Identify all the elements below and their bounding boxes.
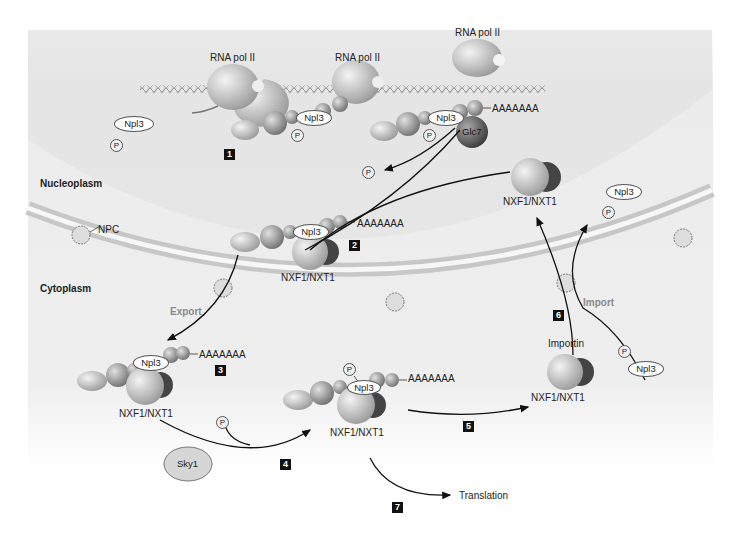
phosphate-imported: P [602,206,615,219]
sky1-label: Sky1 [177,458,198,469]
polya-tail-1: AAAAAAA [492,103,539,114]
npl3-imported: Npl3 [606,184,642,200]
export-label: Export [170,306,202,317]
importin-label: Importin [548,338,584,349]
step-7-badge: 7 [392,502,403,513]
npc-label: NPC [98,224,119,235]
step-4-badge: 4 [280,459,291,470]
translation-label: Translation [459,490,508,501]
rna-pol-label-2: RNA pol II [335,52,380,63]
phosphate-step4: P [343,363,356,376]
nxf1-nxt1-label-step3: NXF1/NXT1 [119,408,173,419]
step-5-badge: 5 [463,421,474,432]
phosphate-sky1: P [216,416,229,429]
nxf1-nxt1-label-step2: NXF1/NXT1 [281,272,335,283]
diagram-graphics [0,0,741,534]
step-3-badge: 3 [215,365,226,376]
diagram-canvas: RNA pol II RNA pol II RNA pol II Nucleop… [0,0,741,534]
npl3-step2: Npl3 [293,224,329,240]
nucleoplasm-label: Nucleoplasm [40,178,102,189]
polya-tail-4: AAAAAAA [408,373,455,384]
npl3-free-nucleus: Npl3 [114,116,154,132]
import-label: Import [583,297,614,308]
npl3-cytoplasm: Npl3 [628,361,664,377]
nxf1-nxt1-label-step5: NXF1/NXT1 [531,392,585,403]
polya-tail-2: AAAAAAA [357,218,404,229]
npl3-glc7-complex: Npl3 [428,110,464,126]
phosphate-free-nucleus: P [110,139,123,152]
phosphate-cytoplasm: P [618,345,631,358]
glc7-label: Glc7 [462,126,482,137]
npl3-step1: Npl3 [296,110,332,126]
phosphate-step1: P [291,129,304,142]
nxf1-nxt1-label-nucleus: NXF1/NXT1 [503,196,557,207]
rna-pol-label-3: RNA pol II [455,27,500,38]
cytoplasm-label: Cytoplasm [40,283,91,294]
rna-pol-label-1: RNA pol II [210,52,255,63]
step-2-badge: 2 [349,240,360,251]
step-6-badge: 6 [553,310,564,321]
npl3-step3: Npl3 [133,355,169,371]
npl3-step4: Npl3 [347,380,381,395]
polya-tail-3: AAAAAAA [199,349,246,360]
phosphate-glc7-complex: P [423,129,436,142]
phosphate-released: P [362,166,375,179]
nxf1-nxt1-label-step4: NXF1/NXT1 [330,427,384,438]
step-1-badge: 1 [224,149,235,160]
